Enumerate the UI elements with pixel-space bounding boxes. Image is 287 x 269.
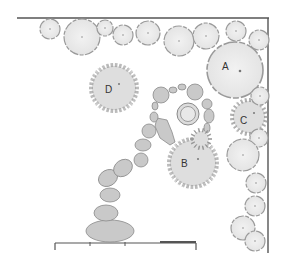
tree [193, 23, 219, 49]
stepping-stone [142, 124, 156, 138]
stepping-stone [202, 99, 212, 109]
tree [246, 173, 266, 193]
stepping-stone [152, 102, 158, 110]
pond [177, 103, 199, 125]
stepping-stone [178, 84, 186, 90]
stepping-stone [100, 188, 120, 202]
stepping-stone [134, 153, 148, 167]
label-a: A [222, 61, 229, 72]
tree [164, 26, 194, 56]
label-b: B [181, 158, 188, 169]
tree [64, 19, 100, 55]
stepping-stone [204, 109, 214, 123]
tree [245, 231, 265, 251]
label-c: C [240, 115, 247, 126]
tree [226, 21, 246, 41]
stepping-stone [135, 139, 151, 151]
tree [136, 21, 160, 45]
stepping-stone [153, 87, 169, 103]
garden-plan: A B C D [0, 0, 287, 269]
shrub-d [89, 63, 139, 113]
shrub-b [167, 137, 219, 189]
tree [40, 19, 60, 39]
stepping-stone [169, 87, 177, 93]
stepping-stone [155, 118, 175, 145]
tree [97, 20, 113, 36]
stepping-stone [86, 220, 134, 242]
label-d: D [105, 84, 112, 95]
tree [227, 139, 259, 171]
stepping-stone [187, 84, 203, 100]
tree [113, 25, 133, 45]
stepping-stone [150, 112, 158, 122]
stepping-stone [94, 205, 118, 221]
tree [245, 196, 265, 216]
tree [251, 87, 269, 105]
